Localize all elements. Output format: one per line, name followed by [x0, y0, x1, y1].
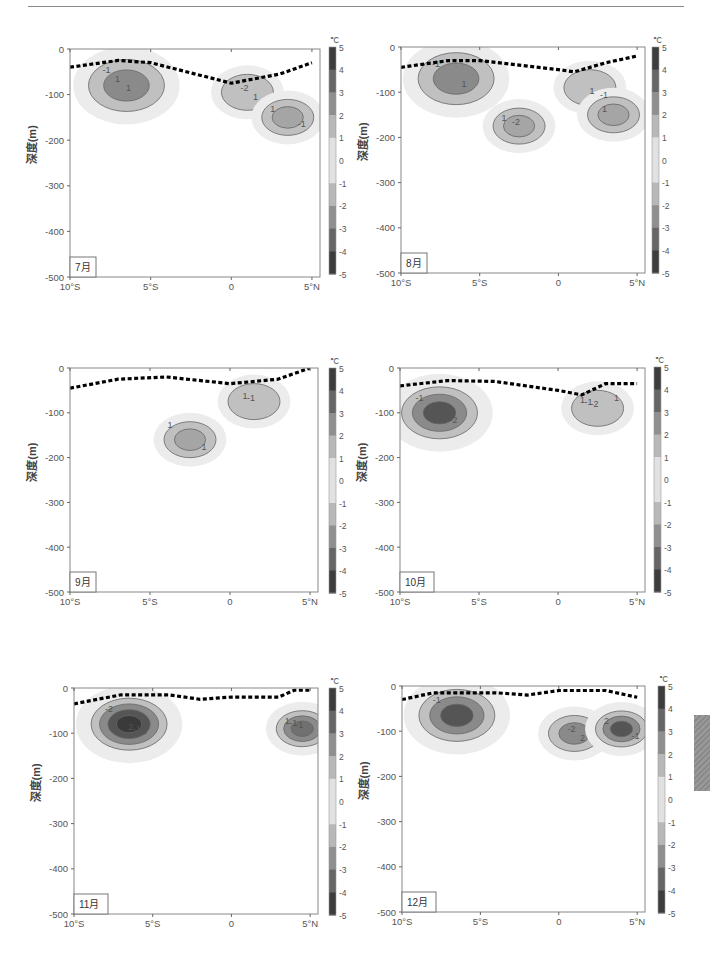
contour-label: 1: [589, 86, 594, 96]
side-tab[interactable]: [694, 715, 710, 791]
y-tick-label: -100: [377, 726, 396, 737]
colorbar-tick-label: -2: [668, 840, 676, 850]
colorbar-tick-label: -2: [662, 201, 670, 211]
colorbar-tick-label: 5: [668, 682, 673, 692]
contour-label: -1: [298, 119, 306, 129]
colorbar-tick-label: -1: [339, 499, 347, 509]
colorbar-tick-label: -4: [662, 246, 670, 256]
y-axis-label: 深度(m): [355, 442, 368, 481]
colorbar-tick-label: 3: [662, 88, 667, 98]
contour-label: -2: [567, 724, 575, 734]
colorbar-tick-label: 1: [668, 772, 673, 782]
x-tick-label: 10°S: [392, 916, 413, 927]
x-tick-label: 5°N: [304, 281, 320, 292]
header-rule: [28, 6, 684, 7]
y-tick-label: -200: [49, 773, 68, 784]
colorbar-tick-label: 5: [339, 43, 344, 53]
contour-label: -1: [432, 59, 440, 69]
plot-frame: [400, 368, 645, 592]
chart-panel-5: -2-1-1-1-11210-100-200-300-400-50010°S5°…: [0, 0, 710, 966]
month-label: 8月: [406, 258, 422, 269]
y-tick-label: -200: [376, 132, 395, 143]
colorbar-tick-label: 2: [339, 111, 344, 121]
y-tick-label: -500: [375, 587, 394, 598]
y-tick-label: -300: [45, 180, 64, 191]
contour-label: -1: [631, 731, 639, 741]
colorbar-tick-label: -2: [339, 201, 347, 211]
contour-label: 1: [167, 420, 172, 430]
plot-frame: [402, 686, 645, 912]
contour-label: -1: [433, 695, 441, 705]
x-tick-label: 5°S: [142, 596, 157, 607]
thermocline-line: [400, 381, 637, 395]
y-axis-label: 深度(m): [25, 125, 38, 164]
x-tick-label: 5°S: [472, 277, 487, 288]
y-tick-label: 0: [390, 42, 395, 53]
colorbar-tick-label: 1: [662, 133, 667, 143]
month-label-box: [70, 257, 96, 277]
colorbar-tick-label: -5: [339, 589, 347, 599]
x-tick-label: 0: [555, 596, 560, 607]
y-tick-label: -200: [45, 135, 64, 146]
y-tick-label: -500: [376, 268, 395, 279]
chart-svg: -1-2-2-111110-100-200-300-400-50010°S5°S…: [0, 0, 710, 966]
x-tick-label: 0: [556, 277, 561, 288]
colorbar-tick-label: -3: [339, 544, 347, 554]
chart-svg: -1-2-111110-100-200-300-400-50010°S5°S05…: [0, 0, 710, 966]
colorbar-tick-label: -2: [339, 842, 347, 852]
colorbar-tick-label: -4: [668, 886, 676, 896]
y-tick-label: -100: [376, 87, 395, 98]
colorbar-tick-label: 4: [339, 65, 344, 75]
contour-label: -2: [105, 704, 113, 714]
colorbar-tick-label: -1: [668, 818, 676, 828]
colorbar: [654, 367, 661, 592]
x-tick-label: 5°N: [629, 596, 645, 607]
contour-label: 1: [462, 79, 467, 89]
colorbar: [329, 47, 336, 274]
contour-label: -1: [247, 393, 255, 403]
chart-panel-6: -1-2-112210-100-200-300-400-50010°S5°S05…: [0, 0, 710, 966]
contour-label: 2: [580, 733, 585, 743]
contour-label: 1: [580, 395, 585, 405]
colorbar-tick-label: 2: [339, 752, 344, 762]
contour-label: 1: [115, 74, 120, 84]
colorbar-tick-label: 1: [339, 774, 344, 784]
y-tick-label: -400: [375, 542, 394, 553]
colorbar-tick-label: 1: [339, 133, 344, 143]
y-tick-label: -300: [49, 818, 68, 829]
chart-svg: -1-2-111110-100-200-300-400-50010°S5°S05…: [0, 0, 710, 966]
y-tick-label: 0: [59, 363, 64, 374]
colorbar-tick-label: 3: [339, 729, 344, 739]
month-label-box: [400, 572, 434, 592]
plot-frame: [70, 49, 320, 277]
chart-panel-2: -1-2-111110-100-200-300-400-50010°S5°S05…: [0, 0, 710, 966]
y-tick-label: 0: [63, 683, 68, 694]
colorbar-tick-label: 2: [664, 430, 669, 440]
x-tick-label: 5°S: [143, 281, 158, 292]
colorbar: [658, 686, 665, 913]
chart-svg: -2-1-1-1-11210-100-200-300-400-50010°S5°…: [0, 0, 710, 966]
contour-label: 1: [253, 92, 258, 102]
thermocline-line: [70, 368, 310, 388]
month-label-box: [74, 894, 108, 914]
thermocline-line: [402, 691, 637, 700]
contour-label: 1: [602, 104, 607, 114]
y-tick-label: -100: [45, 407, 64, 418]
contour-label: -1: [600, 90, 608, 100]
month-label: 11月: [79, 899, 99, 910]
colorbar: [329, 368, 336, 593]
colorbar-tick-label: -1: [339, 179, 347, 189]
contour-label: -1: [585, 397, 593, 407]
y-tick-label: -200: [45, 452, 64, 463]
x-tick-label: 5°N: [629, 916, 645, 927]
contour-label: 1: [201, 442, 206, 452]
contour-label: 1: [439, 411, 444, 421]
colorbar-tick-label: 4: [339, 386, 344, 396]
colorbar-tick-label: -4: [339, 247, 347, 257]
contour-label: -1: [295, 720, 303, 730]
colorbar-tick-label: -3: [339, 865, 347, 875]
colorbar-tick-label: 5: [339, 364, 344, 374]
colorbar-tick-label: 1: [664, 453, 669, 463]
colorbar-tick-label: -5: [339, 911, 347, 921]
colorbar-tick-label: -4: [664, 565, 672, 575]
